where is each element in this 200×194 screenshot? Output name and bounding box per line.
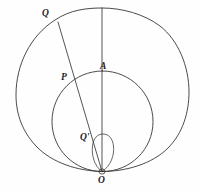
point-label-Q-prime: Q' <box>80 133 90 143</box>
point-label-O: O <box>98 176 105 186</box>
inner-generating-circle <box>52 71 153 172</box>
outer-limacon-curve <box>16 8 189 172</box>
radius-vector-QPO <box>58 22 102 172</box>
point-label-A: A <box>100 62 106 72</box>
geometry-figure: Q A P Q' O <box>0 0 200 194</box>
point-label-P: P <box>61 73 67 83</box>
inner-loop-curve <box>92 134 113 172</box>
figure-canvas <box>0 0 200 194</box>
point-label-Q: Q <box>42 9 49 19</box>
